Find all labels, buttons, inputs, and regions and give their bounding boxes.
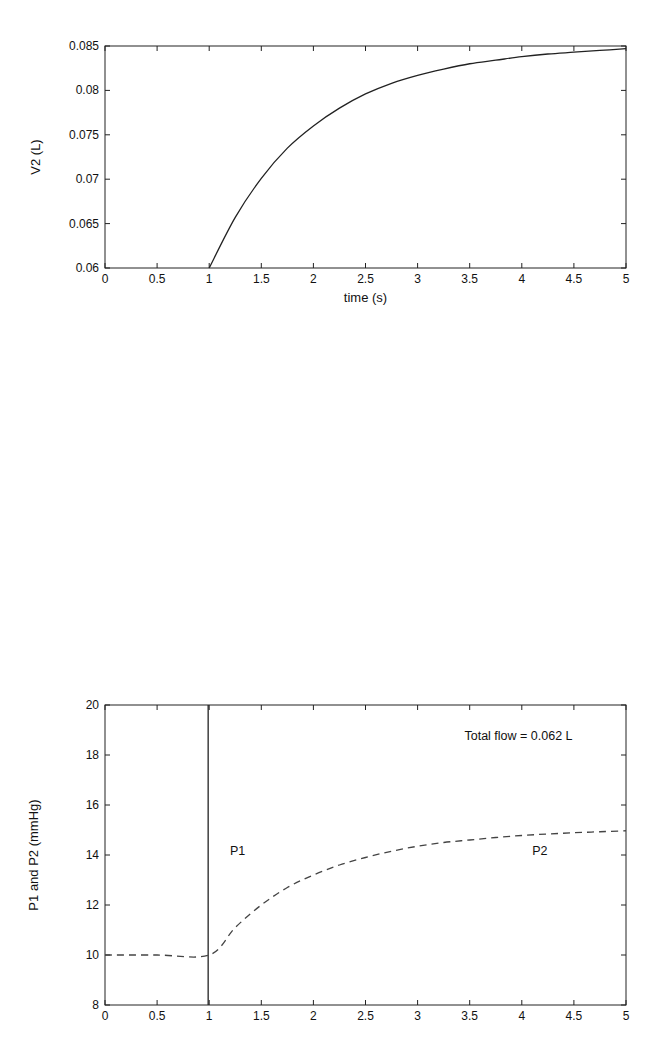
y-tick-label: 0.07 <box>76 172 100 186</box>
x-tick-label: 1 <box>206 1009 213 1023</box>
y-tick-label: 18 <box>86 748 100 762</box>
annotation-total-flow-0-062-l: Total flow = 0.062 L <box>464 729 572 743</box>
v2-volume-chart: 00.511.522.533.544.550.060.0650.070.0750… <box>0 0 664 320</box>
x-tick-label: 2 <box>310 1009 317 1023</box>
x-tick-label: 0.5 <box>149 1009 166 1023</box>
x-tick-label: 3 <box>414 1009 421 1023</box>
x-tick-label: 5 <box>623 1009 630 1023</box>
x-tick-label: 2.5 <box>357 1009 374 1023</box>
x-tick-label: 0.5 <box>149 272 166 286</box>
y-tick-label: 0.065 <box>69 217 99 231</box>
y-axis-label: P1 and P2 (mmHg) <box>26 799 41 910</box>
plot-area-frame <box>105 46 626 268</box>
x-tick-label: 5 <box>623 272 630 286</box>
y-tick-label: 10 <box>86 948 100 962</box>
x-tick-label: 0 <box>102 1009 109 1023</box>
v2-chart-svg: 00.511.522.533.544.550.060.0650.070.0750… <box>0 0 664 320</box>
x-tick-label: 4.5 <box>566 272 583 286</box>
y-tick-label: 20 <box>86 698 100 712</box>
x-axis-label: time (s) <box>344 290 387 305</box>
x-tick-label: 4 <box>518 1009 525 1023</box>
x-tick-label: 1.5 <box>253 1009 270 1023</box>
x-tick-label: 2 <box>310 272 317 286</box>
pressure-chart-svg: 00.511.522.533.544.558101214161820Total … <box>0 680 664 1043</box>
y-tick-label: 8 <box>92 998 99 1012</box>
series-line-v2 <box>209 49 626 268</box>
pressure-chart: 00.511.522.533.544.558101214161820Total … <box>0 680 664 1043</box>
x-tick-label: 3.5 <box>461 272 478 286</box>
plot-area-frame <box>105 705 626 1005</box>
y-tick-label: 16 <box>86 798 100 812</box>
y-axis-label: V2 (L) <box>28 139 43 174</box>
y-tick-label: 12 <box>86 898 100 912</box>
x-tick-label: 1.5 <box>253 272 270 286</box>
y-tick-label: 0.08 <box>76 83 100 97</box>
y-tick-label: 0.06 <box>76 261 100 275</box>
x-tick-label: 4.5 <box>566 1009 583 1023</box>
annotation-p1: P1 <box>230 844 245 858</box>
x-tick-label: 2.5 <box>357 272 374 286</box>
x-tick-label: 4 <box>518 272 525 286</box>
series-line-p2 <box>105 831 626 957</box>
x-tick-label: 3.5 <box>461 1009 478 1023</box>
x-tick-label: 1 <box>206 272 213 286</box>
y-tick-label: 0.075 <box>69 128 99 142</box>
y-tick-label: 0.085 <box>69 39 99 53</box>
x-tick-label: 0 <box>102 272 109 286</box>
annotation-p2: P2 <box>532 844 547 858</box>
y-tick-label: 14 <box>86 848 100 862</box>
x-tick-label: 3 <box>414 272 421 286</box>
